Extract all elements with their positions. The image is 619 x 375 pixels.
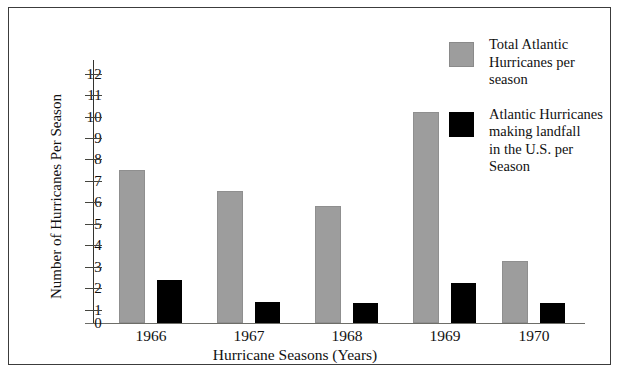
- x-tick-label-1968: 1968: [302, 327, 392, 345]
- bar-landfall-1969: [451, 283, 476, 323]
- legend-entry-total: Total Atlantic Hurricanes per season: [449, 36, 609, 89]
- bar-total-1967: [217, 191, 243, 323]
- y-tick-label-0: 0: [76, 316, 102, 331]
- legend-swatch-landfall-icon: [449, 112, 474, 137]
- y-tick-mark-3: [85, 267, 102, 268]
- bar-total-1968: [315, 206, 341, 323]
- legend-label-total: Total Atlantic Hurricanes per season: [489, 36, 609, 89]
- y-tick-mark-6: [85, 202, 102, 203]
- y-tick-mark-11: [85, 95, 102, 96]
- y-tick-mark-7: [85, 181, 102, 182]
- bar-landfall-1967: [255, 302, 280, 323]
- bar-total-1966: [119, 170, 145, 323]
- y-tick-mark-4: [85, 245, 102, 246]
- x-axis-line: [85, 323, 585, 324]
- bar-total-1970: [502, 261, 528, 323]
- y-tick-mark-9: [85, 138, 102, 139]
- x-axis-title: Hurricane Seasons (Years): [85, 346, 505, 364]
- x-tick-label-1966: 1966: [106, 327, 196, 345]
- y-tick-mark-10: [85, 117, 102, 118]
- legend-entry-landfall: Atlantic Hurricanes making landfall in t…: [449, 106, 609, 176]
- y-tick-mark-1: [85, 310, 102, 311]
- chart-figure: 12 11 10 9 8 7 6 5 4: [8, 7, 611, 365]
- y-tick-mark-2: [85, 288, 102, 289]
- y-axis-title: Number of Hurricanes Per Season: [48, 72, 65, 322]
- x-tick-label-1967: 1967: [204, 327, 294, 345]
- y-tick-mark-5: [85, 224, 102, 225]
- bar-total-1969: [413, 112, 439, 323]
- chart-legend: Total Atlantic Hurricanes per season Atl…: [449, 36, 609, 193]
- bar-landfall-1970: [540, 303, 565, 323]
- bar-landfall-1966: [157, 280, 182, 323]
- x-tick-label-1969: 1969: [400, 327, 490, 345]
- x-tick-label-1970: 1970: [489, 327, 579, 345]
- plot-area: 12 11 10 9 8 7 6 5 4: [9, 8, 612, 366]
- y-tick-mark-12: [85, 74, 102, 75]
- y-tick-mark-8: [85, 159, 102, 160]
- bar-landfall-1968: [353, 303, 378, 323]
- legend-label-landfall: Atlantic Hurricanes making landfall in t…: [489, 106, 609, 176]
- legend-swatch-total-icon: [449, 42, 474, 67]
